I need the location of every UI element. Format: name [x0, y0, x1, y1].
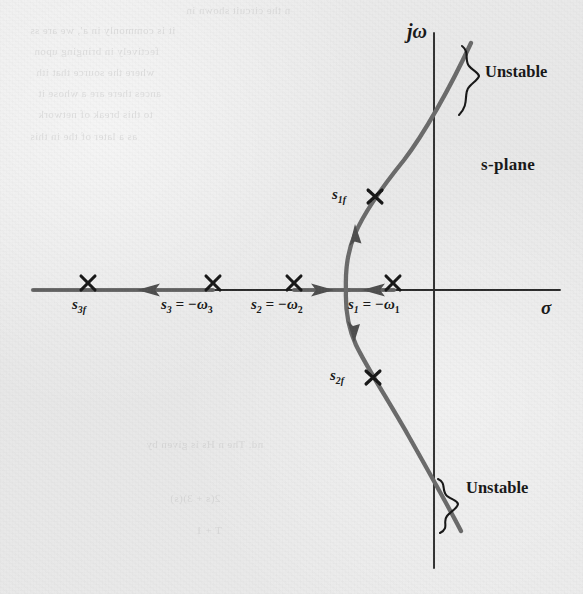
pole-label-equation: = −ω [262, 296, 298, 312]
pole-label-equation-subscript: 1 [395, 304, 400, 315]
pole-label-s3: s3 = −ω3 [161, 296, 213, 315]
pole-label-equation: = −ω [359, 296, 395, 312]
brace-unstable-top [459, 46, 479, 115]
pole-label-equation: = −ω [172, 296, 208, 312]
locus-branch-upper [346, 43, 471, 291]
pole-label-s1: s1 = −ω1 [348, 296, 400, 315]
pole-label-s2: s2 = −ω2 [251, 296, 303, 315]
pole-markers [81, 190, 400, 384]
figure-canvas: n the circuit shown init is commonly in … [0, 0, 583, 594]
pole-label-subscript: 2f [336, 375, 344, 386]
pole-label-equation-subscript: 3 [208, 304, 213, 315]
s-plane-label: s-plane [481, 155, 535, 175]
pole-label-subscript: 1f [338, 194, 346, 205]
sigma-axis-label: σ [541, 297, 551, 319]
pole-label-subscript: 3f [78, 304, 86, 315]
pole-label-equation-subscript: 2 [298, 304, 303, 315]
jomega-axis-label: jω [407, 20, 427, 43]
pole-label-s2f: s2f [330, 367, 344, 386]
unstable-top-label: Unstable [485, 62, 547, 82]
locus-branch-lower [346, 289, 461, 531]
pole-label-s1f: s1f [332, 186, 346, 205]
pole-label-s3f: s3f [72, 296, 86, 315]
unstable-bottom-label: Unstable [466, 478, 528, 498]
